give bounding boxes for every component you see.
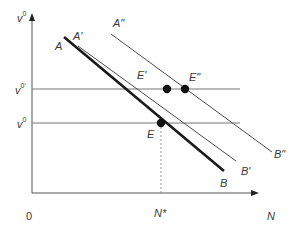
- point-E1: [163, 85, 171, 93]
- y-axis-label: v0: [17, 11, 26, 24]
- curve-A1B1: [78, 46, 236, 161]
- x-axis-arrow-icon: [251, 190, 259, 196]
- point-E: [157, 119, 165, 127]
- y-axis-arrow-icon: [29, 13, 35, 21]
- level-label-v0prime: v0': [15, 83, 26, 96]
- curve-label-A2: A": [113, 18, 124, 29]
- curve-label-B: B: [220, 178, 227, 189]
- point-label-E2: E": [189, 72, 200, 83]
- curve-A2B2: [111, 34, 272, 152]
- diagram-canvas: [0, 0, 303, 238]
- equilibrium-x-label: N*: [154, 208, 166, 219]
- point-E2: [181, 85, 189, 93]
- point-label-E: E: [147, 129, 154, 140]
- curve-AB: [64, 37, 224, 171]
- curve-label-B1: B': [241, 166, 250, 177]
- origin-label: 0: [26, 211, 32, 222]
- x-axis-label: N: [267, 211, 275, 222]
- level-label-v0: v0: [17, 117, 26, 130]
- curve-label-A: A: [55, 41, 62, 52]
- curve-label-B2: B": [274, 149, 285, 160]
- point-label-E1: E': [137, 70, 146, 81]
- curve-label-A1: A': [73, 31, 82, 42]
